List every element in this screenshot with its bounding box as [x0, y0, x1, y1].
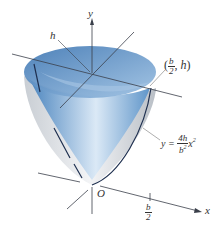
x-axis-label: x: [205, 205, 210, 216]
paraboloid-diagram: [0, 0, 218, 231]
x-tick-label: b2: [145, 203, 152, 222]
point-label: (b2, h): [164, 57, 191, 76]
height-label: h: [50, 30, 56, 41]
axis-z-lower: [67, 190, 88, 209]
y-axis-arrow: [90, 18, 94, 25]
equation-leader: [143, 128, 160, 140]
x-axis-arrow: [194, 208, 202, 213]
axis-back-left: [38, 173, 80, 182]
origin-label: O: [97, 188, 105, 199]
y-axis-label: y: [88, 8, 93, 19]
equation-label: y = 4hb2x2: [161, 134, 196, 155]
